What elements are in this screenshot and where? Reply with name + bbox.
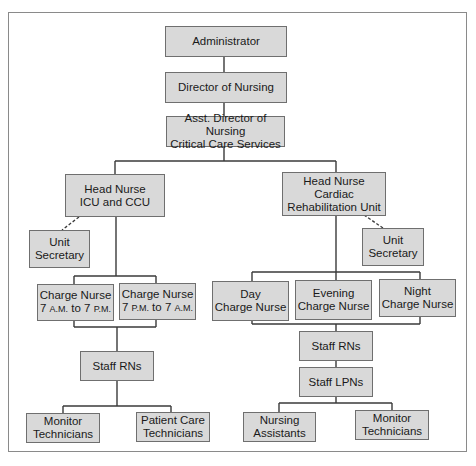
node-label: Night Charge Nurse <box>382 285 454 311</box>
node-label: Unit Secretary <box>35 236 84 262</box>
node-day-charge-nurse-cardiac: Day Charge Nurse <box>212 281 289 321</box>
node-monitor-technicians-cardiac: Monitor Technicians <box>355 410 429 440</box>
node-label: Day Charge Nurse <box>215 288 287 314</box>
node-monitor-technicians-icu: Monitor Technicians <box>26 413 100 443</box>
node-label: Staff RNs <box>312 340 361 353</box>
node-staff-rns-icu: Staff RNs <box>80 351 154 381</box>
node-label: Staff LPNs <box>309 376 364 389</box>
node-label: Charge Nurse7 A.M. to 7 P.M. <box>40 289 112 316</box>
node-director-of-nursing: Director of Nursing <box>165 72 287 103</box>
node-charge-nurse-night-icu: Charge Nurse7 P.M. to 7 A.M. <box>119 283 196 320</box>
node-administrator: Administrator <box>165 26 287 57</box>
node-label: Staff RNs <box>93 360 142 373</box>
node-label: Evening Charge Nurse <box>298 287 370 313</box>
node-label: Patient Care Technicians <box>141 414 205 440</box>
node-nursing-assistants-cardiac: Nursing Assistants <box>243 412 316 442</box>
node-label: Head Nurse Cardiac Rehabilitation Unit <box>287 175 380 214</box>
node-label: Head Nurse ICU and CCU <box>80 183 150 209</box>
node-evening-charge-nurse-cardiac: Evening Charge Nurse <box>295 280 372 320</box>
node-head-nurse-icu: Head Nurse ICU and CCU <box>65 174 165 217</box>
node-label: Monitor Technicians <box>362 412 422 438</box>
node-staff-lpns-cardiac: Staff LPNs <box>299 367 373 397</box>
node-label: Unit Secretary <box>368 234 417 260</box>
node-staff-rns-cardiac: Staff RNs <box>299 331 373 361</box>
node-unit-secretary-cardiac: Unit Secretary <box>362 228 424 266</box>
node-label: Monitor Technicians <box>33 415 93 441</box>
node-label: Administrator <box>192 35 260 48</box>
node-label: Director of Nursing <box>178 81 274 94</box>
node-patient-care-technicians-icu: Patient Care Technicians <box>136 412 210 442</box>
node-label: Charge Nurse7 P.M. to 7 A.M. <box>122 288 194 315</box>
node-charge-nurse-day-icu: Charge Nurse7 A.M. to 7 P.M. <box>37 284 114 321</box>
node-night-charge-nurse-cardiac: Night Charge Nurse <box>379 279 456 317</box>
node-unit-secretary-icu: Unit Secretary <box>29 230 90 268</box>
node-asst-director-of-nursing: Asst. Director of Nursing Critical Care … <box>166 116 285 147</box>
node-label: Nursing Assistants <box>253 414 305 440</box>
node-head-nurse-cardiac-rehab: Head Nurse Cardiac Rehabilitation Unit <box>282 172 386 216</box>
node-label: Asst. Director of Nursing Critical Care … <box>167 112 284 151</box>
